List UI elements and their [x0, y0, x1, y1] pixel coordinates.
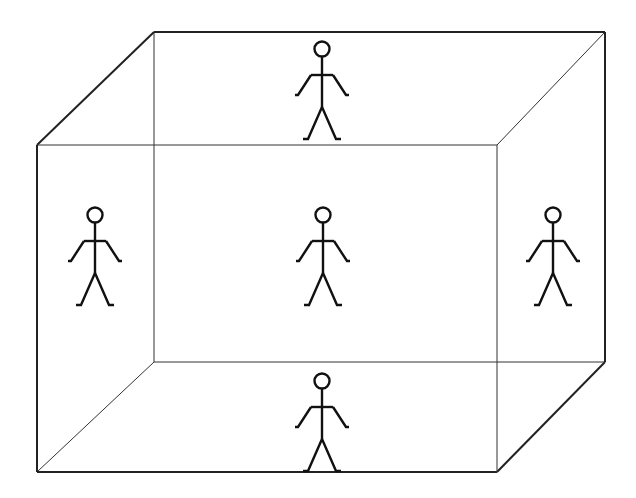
- stick-figure-right: [526, 208, 580, 306]
- top-right-connector: [497, 32, 605, 145]
- stick-figure-center: [296, 208, 350, 306]
- bottom-right-connector: [497, 362, 605, 472]
- box-diagram: [0, 0, 636, 498]
- stick-figure-top: [295, 42, 349, 140]
- bottom-left-connector: [37, 362, 154, 472]
- top-left-connector: [37, 32, 154, 145]
- stick-figure-left: [68, 208, 122, 306]
- stick-figure-bottom: [295, 374, 349, 472]
